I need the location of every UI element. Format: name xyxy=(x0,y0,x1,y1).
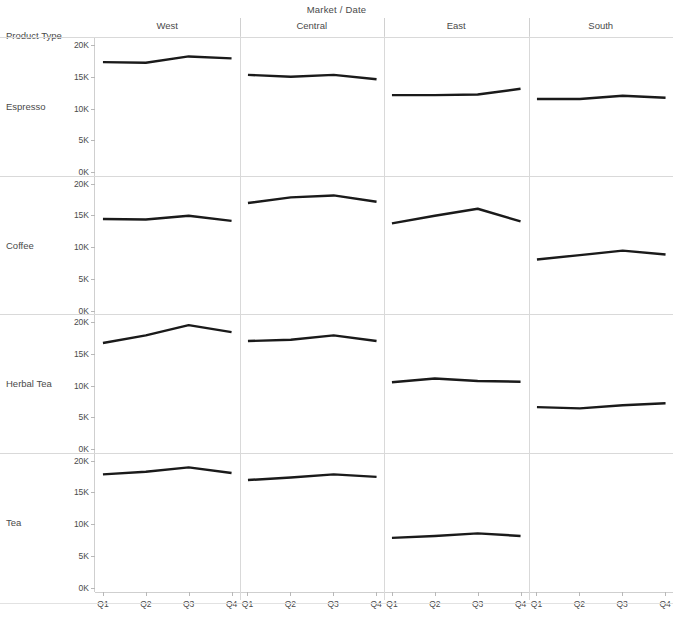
line-series xyxy=(240,454,385,593)
y-tick-mark xyxy=(91,184,95,185)
x-tick-mark xyxy=(376,592,377,596)
y-tick-mark xyxy=(91,311,95,312)
y-tick-mark xyxy=(91,279,95,280)
panel-herbal-tea-east[interactable] xyxy=(384,315,529,452)
x-tick-label: Q3 xyxy=(472,599,483,609)
panel-herbal-tea-west[interactable] xyxy=(95,315,240,452)
line-series xyxy=(384,38,529,177)
y-tick-label: 0K xyxy=(79,167,89,177)
row-label-herbal-tea: Herbal Tea xyxy=(6,378,52,389)
y-axis-coffee: 0K5K10K15K20K xyxy=(55,177,95,316)
y-tick-label: 20K xyxy=(74,456,89,466)
panel-espresso-west[interactable] xyxy=(95,38,240,175)
x-tick-label: Q2 xyxy=(574,599,585,609)
y-tick-label: 15K xyxy=(74,72,89,82)
column-divider xyxy=(384,590,385,600)
panel-espresso-east[interactable] xyxy=(384,38,529,175)
x-tick-mark xyxy=(333,592,334,596)
panel-grid xyxy=(95,38,673,592)
column-header-west: West xyxy=(95,18,240,38)
line-series xyxy=(384,454,529,593)
y-tick-label: 10K xyxy=(74,242,89,252)
y-tick-mark xyxy=(91,588,95,589)
panel-herbal-tea-south[interactable] xyxy=(529,315,673,452)
panel-row-tea xyxy=(95,454,673,591)
x-axis: Q1Q2Q3Q4Q1Q2Q3Q4Q1Q2Q3Q4Q1Q2Q3Q4 xyxy=(95,592,673,622)
y-tick-mark xyxy=(91,140,95,141)
y-tick-label: 20K xyxy=(74,317,89,327)
panel-row-herbal-tea xyxy=(95,315,673,452)
panel-tea-east[interactable] xyxy=(384,454,529,591)
x-tick-label: Q2 xyxy=(429,599,440,609)
line-series xyxy=(529,177,673,316)
panel-coffee-west[interactable] xyxy=(95,177,240,314)
column-divider xyxy=(240,590,241,600)
x-tick-mark xyxy=(232,592,233,596)
y-axis-tea: 0K5K10K15K20K xyxy=(55,454,95,593)
column-divider xyxy=(240,175,241,314)
line-series xyxy=(95,38,240,177)
y-tick-label: 0K xyxy=(79,306,89,316)
y-tick-mark xyxy=(91,417,95,418)
column-divider xyxy=(240,452,241,591)
panel-coffee-central[interactable] xyxy=(240,177,385,314)
column-header-east: East xyxy=(384,18,529,38)
y-tick-label: 15K xyxy=(74,349,89,359)
column-divider xyxy=(529,452,530,591)
y-tick-mark xyxy=(91,109,95,110)
y-tick-mark xyxy=(91,524,95,525)
x-tick-mark xyxy=(478,592,479,596)
panel-herbal-tea-central[interactable] xyxy=(240,315,385,452)
row-label-coffee: Coffee xyxy=(6,240,34,251)
column-divider xyxy=(384,36,385,175)
y-tick-label: 0K xyxy=(79,444,89,454)
y-tick-mark xyxy=(91,461,95,462)
column-header-label: West xyxy=(157,20,178,31)
y-tick-mark xyxy=(91,215,95,216)
panel-tea-south[interactable] xyxy=(529,454,673,591)
column-divider xyxy=(240,36,241,175)
x-tick-mark xyxy=(103,592,104,596)
x-tick-mark xyxy=(521,592,522,596)
column-divider xyxy=(240,313,241,452)
panel-espresso-south[interactable] xyxy=(529,38,673,175)
y-axis-espresso: 0K5K10K15K20K xyxy=(55,38,95,177)
panel-tea-west[interactable] xyxy=(95,454,240,591)
panel-coffee-south[interactable] xyxy=(529,177,673,314)
column-divider xyxy=(384,313,385,452)
column-header-central: Central xyxy=(240,18,385,38)
y-tick-mark xyxy=(91,247,95,248)
x-tick-label: Q2 xyxy=(140,599,151,609)
column-header-label: East xyxy=(447,20,466,31)
x-tick-mark xyxy=(579,592,580,596)
x-tick-label: Q3 xyxy=(183,599,194,609)
x-tick-label: Q3 xyxy=(328,599,339,609)
y-tick-label: 20K xyxy=(74,179,89,189)
y-tick-mark xyxy=(91,45,95,46)
panel-coffee-east[interactable] xyxy=(384,177,529,314)
y-tick-label: 15K xyxy=(74,210,89,220)
column-divider xyxy=(384,452,385,591)
chart-root: Market / Date Product Type WestCentralEa… xyxy=(0,0,673,628)
row-label-espresso: Espresso xyxy=(6,101,46,112)
line-series xyxy=(240,38,385,177)
column-divider xyxy=(529,175,530,314)
x-tick-mark xyxy=(435,592,436,596)
product-type-header: Product Type xyxy=(6,30,62,41)
x-tick-mark xyxy=(665,592,666,596)
y-tick-mark xyxy=(91,449,95,450)
panel-row-coffee xyxy=(95,177,673,314)
line-series xyxy=(95,315,240,454)
column-header-label: South xyxy=(588,20,613,31)
line-series xyxy=(384,315,529,454)
y-tick-label: 10K xyxy=(74,519,89,529)
x-tick-label: Q4 xyxy=(515,599,526,609)
y-tick-mark xyxy=(91,77,95,78)
panel-tea-central[interactable] xyxy=(240,454,385,591)
y-tick-mark xyxy=(91,386,95,387)
line-series xyxy=(240,315,385,454)
panel-espresso-central[interactable] xyxy=(240,38,385,175)
bottom-divider xyxy=(0,603,673,604)
x-tick-mark xyxy=(622,592,623,596)
x-tick-label: Q1 xyxy=(242,599,253,609)
